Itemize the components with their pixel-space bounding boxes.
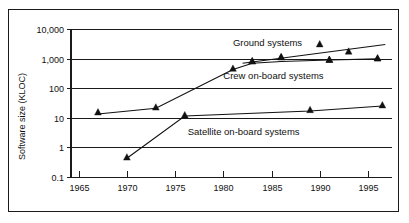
data-point-crew-on-board-systems [249,58,256,64]
x-tick-label-1980: 1980 [213,183,233,193]
y-tick-label-10,000: 10,000 [36,25,64,35]
data-point-ground-systems [316,41,323,47]
y-axis-title: Software size (KLOC) [17,73,27,160]
data-point-satellite-on-board-systems [307,106,314,112]
chart-canvas: Software size (KLOC) 10,0001,0001001010.… [0,0,409,223]
y-tick-label-10: 10 [54,114,64,124]
series-label-ground-systems: Ground systems [233,37,302,48]
data-point-satellite-on-board-systems [379,102,386,108]
data-point-crew-on-board-systems [278,53,285,59]
data-point-crew-on-board-systems [374,55,381,61]
series-inline-labels: Ground systemsCrew on-board systemsSatel… [188,37,324,137]
y-tick-label-100: 100 [49,84,64,94]
x-tick-label-1965: 1965 [69,183,89,193]
gridlines [67,30,392,178]
x-tick-label-1975: 1975 [165,183,185,193]
y-tick-label-1,000: 1,000 [41,55,64,65]
y-tick-label-0.1: 0.1 [51,173,64,183]
series-trendlines [98,44,385,158]
x-tick-label-1970: 1970 [117,183,137,193]
x-tick-label-1990: 1990 [310,183,330,193]
x-tick-labels: 1965197019751980198519901995 [69,183,378,193]
figure-root: Software size (KLOC) 10,0001,0001001010.… [0,0,409,223]
series-label-satellite-on-board-systems: Satellite on-board systems [188,126,300,137]
x-tick-label-1985: 1985 [262,183,282,193]
data-point-crew-on-board-systems [95,109,102,115]
y-tick-labels: 10,0001,0001001010.1 [36,25,64,183]
trendline-crew-on-board-systems [98,59,378,114]
series-label-crew-on-board-systems: Crew on-board systems [223,70,324,81]
series-markers [95,41,386,161]
y-tick-label-1: 1 [59,143,64,153]
data-point-satellite-on-board-systems [181,111,188,117]
x-tick-label-1995: 1995 [358,183,378,193]
x-tick-marks [80,171,369,177]
